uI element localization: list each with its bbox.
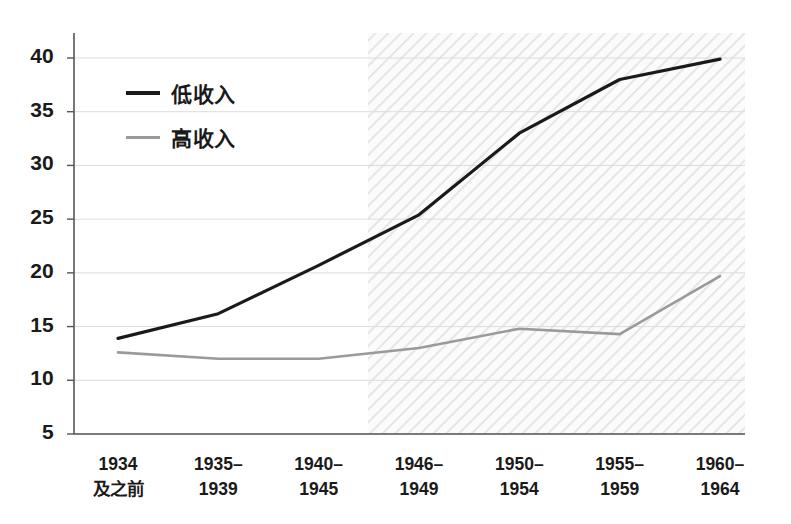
y-axis-tick-label: 10 bbox=[10, 366, 54, 390]
legend-label-high-income: 高收入 bbox=[171, 122, 236, 152]
y-axis-tick-label: 30 bbox=[10, 151, 54, 175]
x-axis-tick-label: 1940– 1945 bbox=[264, 452, 374, 503]
legend-color-swatch-high-income bbox=[126, 136, 160, 139]
x-axis-tick-label: 1946– 1949 bbox=[364, 452, 474, 503]
legend-item-high-income[interactable]: 高收入 bbox=[126, 122, 236, 152]
y-axis-tick-label: 5 bbox=[10, 420, 54, 444]
x-axis-tick-label: 1935– 1939 bbox=[163, 452, 273, 503]
y-axis-tick-label: 35 bbox=[10, 98, 54, 122]
x-axis-tick-label: 1960– 1964 bbox=[665, 452, 775, 503]
y-axis-tick-label: 40 bbox=[10, 44, 54, 68]
x-axis-tick-label: 1934 及之前 bbox=[63, 452, 173, 503]
x-axis-tick-label: 1955– 1959 bbox=[565, 452, 675, 503]
shaded-projection-region bbox=[368, 33, 745, 434]
y-axis-tick-label: 20 bbox=[10, 259, 54, 283]
line-chart: 510152025303540 1934 及之前1935– 19391940– … bbox=[0, 0, 791, 524]
legend-label-low-income: 低收入 bbox=[171, 78, 236, 108]
legend-color-swatch-low-income bbox=[126, 91, 160, 95]
x-axis-tick-label: 1950– 1954 bbox=[464, 452, 574, 503]
legend-item-low-income[interactable]: 低收入 bbox=[126, 78, 236, 108]
chart-canvas bbox=[0, 0, 791, 524]
y-axis-ticks bbox=[67, 58, 74, 434]
y-axis-tick-label: 25 bbox=[10, 205, 54, 229]
y-axis-tick-label: 15 bbox=[10, 313, 54, 337]
